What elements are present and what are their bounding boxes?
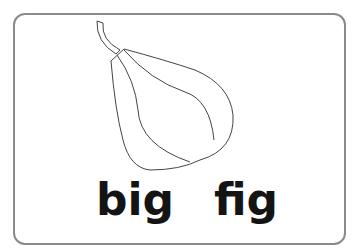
fig-illustration	[0, 0, 352, 251]
word-big: big	[96, 178, 174, 222]
word-fig: fig	[214, 178, 278, 222]
